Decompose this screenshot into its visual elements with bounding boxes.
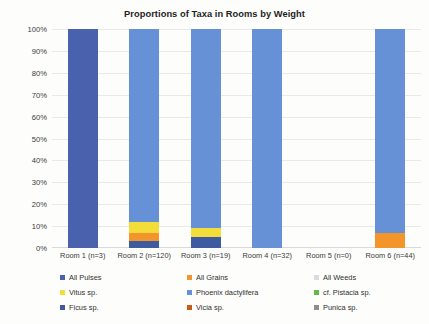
gridline (52, 73, 421, 74)
gridline (52, 51, 421, 52)
legend-swatch-icon (187, 305, 192, 310)
y-axis-tick-label: 40% (5, 156, 47, 165)
gridline (52, 226, 421, 227)
legend-swatch-icon (314, 290, 319, 295)
x-axis-tick-label: Room 6 (n=44) (350, 251, 429, 260)
legend-label: Punica sp. (323, 303, 358, 312)
bar-column[interactable] (252, 29, 282, 248)
chart-title: Proportions of Taxa in Rooms by Weight (0, 9, 429, 19)
y-axis-tick-label: 90% (5, 46, 47, 55)
bar-segment[interactable] (129, 241, 159, 248)
legend-label: cf. Pistacia sp. (323, 288, 371, 297)
legend-label: Ficus sp. (69, 303, 99, 312)
gridline (52, 95, 421, 96)
bar-segment[interactable] (375, 233, 405, 248)
legend-swatch-icon (60, 290, 65, 295)
legend-label: Vitus sp. (69, 288, 97, 297)
legend-label: All Grains (196, 273, 228, 282)
y-axis-tick-label: 10% (5, 222, 47, 231)
chart-page: Proportions of Taxa in Rooms by Weight 1… (0, 0, 429, 324)
gridline (52, 139, 421, 140)
bar-column[interactable] (314, 29, 344, 248)
x-axis-line (52, 247, 421, 248)
bar-stack (191, 29, 221, 248)
bar-segment[interactable] (129, 222, 159, 233)
bar-column[interactable] (129, 29, 159, 248)
legend-item[interactable]: Phoenix dactylifera (187, 288, 314, 297)
legend-item[interactable]: Punica sp. (314, 303, 415, 312)
legend-item[interactable]: cf. Pistacia sp. (314, 288, 415, 297)
bar-stack (314, 29, 344, 248)
y-axis-tick-label: 20% (5, 200, 47, 209)
legend-swatch-icon (60, 275, 65, 280)
bar-stack (129, 29, 159, 248)
legend-item[interactable]: Ficus sp. (60, 303, 187, 312)
y-axis-tick-label: 60% (5, 112, 47, 121)
legend-item[interactable]: All Grains (187, 273, 314, 282)
gridline (52, 160, 421, 161)
bar-segment[interactable] (129, 29, 159, 222)
gridline (52, 182, 421, 183)
legend-label: Vicia sp. (196, 303, 224, 312)
y-axis-tick-label: 100% (5, 25, 47, 34)
legend-label: Phoenix dactylifera (196, 288, 258, 297)
plot-area (52, 29, 421, 248)
bar-segment[interactable] (252, 29, 282, 248)
bar-segment[interactable] (68, 29, 98, 248)
legend-swatch-icon (314, 305, 319, 310)
bar-segment[interactable] (129, 233, 159, 242)
legend-item[interactable]: All Pulses (60, 273, 187, 282)
legend-label: All Weeds (323, 273, 356, 282)
bar-segment[interactable] (191, 29, 221, 228)
y-axis-tick-label: 70% (5, 90, 47, 99)
legend-swatch-icon (187, 275, 192, 280)
legend-item[interactable]: All Weeds (314, 273, 415, 282)
gridline (52, 204, 421, 205)
legend-item[interactable]: Vitus sp. (60, 288, 187, 297)
legend-swatch-icon (314, 275, 319, 280)
gridline (52, 29, 421, 30)
bar-stack (375, 29, 405, 248)
y-axis-tick-label: 0% (5, 244, 47, 253)
y-axis-tick-label: 30% (5, 178, 47, 187)
bar-segment[interactable] (191, 237, 221, 248)
y-axis-tick-label: 50% (5, 134, 47, 143)
bar-stack (252, 29, 282, 248)
chart-legend: All PulsesAll GrainsAll WeedsVitus sp.Ph… (60, 270, 415, 315)
legend-swatch-icon (60, 305, 65, 310)
legend-swatch-icon (187, 290, 192, 295)
bar-segment[interactable] (191, 228, 221, 237)
bar-column[interactable] (191, 29, 221, 248)
bar-column[interactable] (68, 29, 98, 248)
bar-segment[interactable] (375, 29, 405, 233)
bar-column[interactable] (375, 29, 405, 248)
legend-item[interactable]: Vicia sp. (187, 303, 314, 312)
gridline (52, 117, 421, 118)
y-axis-tick-label: 80% (5, 68, 47, 77)
legend-label: All Pulses (69, 273, 101, 282)
bar-stack (68, 29, 98, 248)
